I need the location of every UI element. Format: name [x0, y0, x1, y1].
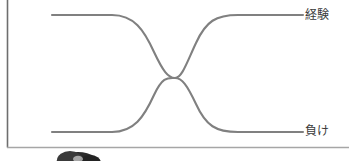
plot-background [0, 0, 349, 161]
series-label-make: 負け [305, 125, 329, 137]
series-label-keiken: 経験 [305, 9, 329, 21]
chart-screenshot: 経験 負け [0, 0, 349, 161]
chart-canvas [0, 0, 349, 161]
